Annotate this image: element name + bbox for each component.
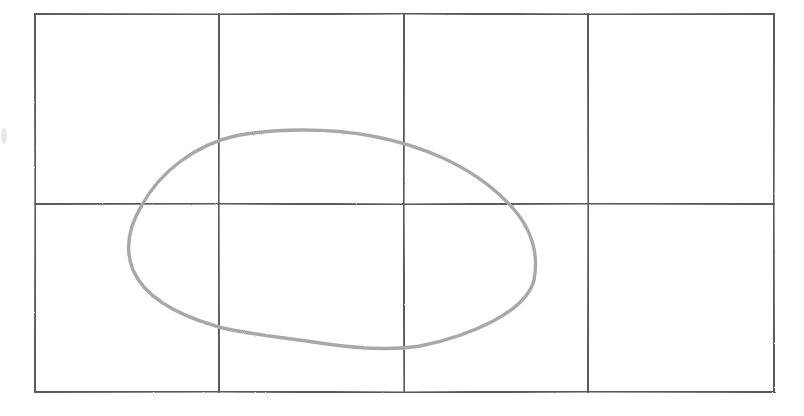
grid-line-horizontal-middle (35, 204, 774, 205)
paper-smudge (1, 128, 7, 144)
pencil-sketch-canvas (0, 0, 804, 416)
grid-line-vertical-2 (404, 14, 405, 392)
hand-drawn-blob (129, 130, 536, 348)
grid (35, 14, 774, 393)
